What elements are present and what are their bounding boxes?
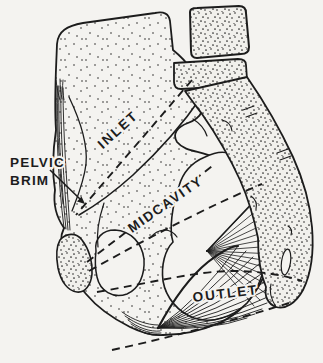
pelvis-drawing: PELVICBRIM INLET MIDCAVITY OUTLET [0, 0, 323, 363]
pelvis-diagram: PELVICBRIM INLET MIDCAVITY OUTLET [0, 0, 323, 363]
lumbar-vertebra-upper [190, 6, 249, 58]
